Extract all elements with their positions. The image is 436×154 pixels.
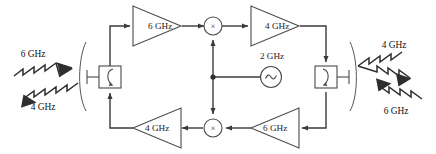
bottom-output-amplifier: 4 GHz (133, 108, 181, 148)
right-outgoing-label: 4 GHz (382, 40, 407, 50)
top-output-amplifier: 4 GHz (251, 6, 299, 46)
left-incoming-signal-6ghz (14, 63, 73, 77)
right-incoming-label: 6 GHz (384, 106, 409, 116)
bottom-input-amplifier-label: 6 GHz (263, 123, 287, 133)
bottom-output-amplifier-label: 4 GHz (145, 123, 169, 133)
right-antenna (337, 42, 356, 111)
left-circulator (99, 66, 121, 88)
top-mixer-symbol: × (211, 22, 216, 31)
right-circulator (315, 66, 337, 88)
bottom-input-amplifier: 6 GHz (251, 108, 299, 148)
bottom-mixer: × (204, 119, 222, 137)
left-outgoing-label: 4 GHz (31, 102, 56, 112)
schematic-canvas: 6 GHz 4 GHz 4 GHz 6 GHz (0, 0, 436, 154)
local-oscillator (261, 67, 282, 88)
left-antenna (80, 42, 99, 111)
local-oscillator-label: 2 GHz (260, 51, 284, 61)
top-output-amplifier-label: 4 GHz (265, 21, 289, 31)
oscillator-distribution-wires (213, 40, 260, 114)
oscillator-junction-dot (210, 74, 215, 79)
top-mixer: × (204, 17, 222, 35)
left-incoming-label: 6 GHz (21, 49, 46, 59)
top-path-wires (110, 26, 326, 66)
top-input-amplifier: 6 GHz (133, 6, 181, 46)
rf-repeater-diagram: 6 GHz 4 GHz 4 GHz 6 GHz (0, 0, 436, 154)
bottom-mixer-symbol: × (211, 124, 216, 133)
top-input-amplifier-label: 6 GHz (148, 21, 172, 31)
